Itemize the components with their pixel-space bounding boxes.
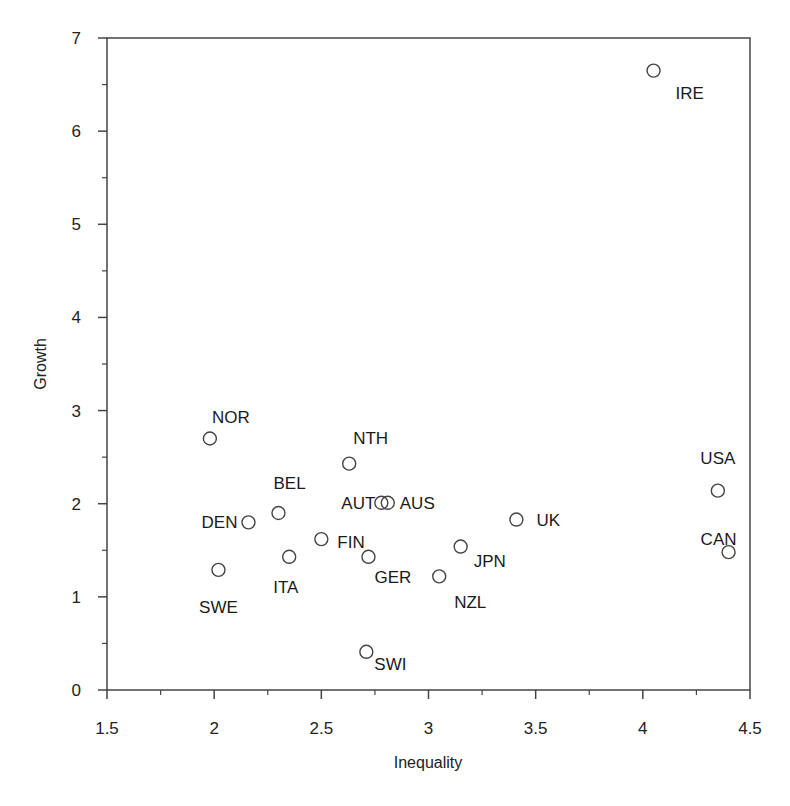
- data-point-usa: USA: [700, 449, 736, 498]
- data-point-nor: NOR: [203, 408, 249, 446]
- circle-marker-icon: [510, 513, 523, 526]
- data-point-nth: NTH: [343, 429, 388, 471]
- data-point-swe: SWE: [199, 563, 238, 617]
- data-point-bel: BEL: [272, 474, 306, 520]
- circle-marker-icon: [212, 563, 225, 576]
- data-points: IRENORNTHUSABELAUTAUSDENUKFINCANJPNITAGE…: [199, 64, 736, 674]
- point-label: ITA: [273, 578, 299, 597]
- y-tick-label: 1: [72, 588, 81, 607]
- data-point-ger: GER: [362, 550, 411, 587]
- x-tick-label: 2.5: [310, 719, 334, 738]
- data-point-ire: IRE: [647, 64, 704, 103]
- data-point-den: DEN: [202, 513, 255, 532]
- point-label: JPN: [474, 552, 506, 571]
- x-tick-label: 4.5: [738, 719, 762, 738]
- y-tick-label: 3: [72, 402, 81, 421]
- y-tick-label: 6: [72, 122, 81, 141]
- x-tick-label: 4: [638, 719, 647, 738]
- x-axis: 1.522.533.544.5: [95, 690, 762, 738]
- point-label: IRE: [676, 84, 704, 103]
- data-point-fin: FIN: [315, 533, 365, 553]
- point-label: CAN: [701, 530, 737, 549]
- circle-marker-icon: [362, 550, 375, 563]
- circle-marker-icon: [711, 484, 724, 497]
- circle-marker-icon: [343, 457, 356, 470]
- plot-frame: [107, 38, 750, 690]
- point-label: NTH: [353, 429, 388, 448]
- scatter-chart: 1.522.533.544.5 01234567 IRENORNTHUSABEL…: [0, 0, 790, 806]
- point-label: UK: [536, 511, 560, 530]
- circle-marker-icon: [360, 645, 373, 658]
- data-point-can: CAN: [701, 530, 737, 559]
- circle-marker-icon: [315, 533, 328, 546]
- data-point-jpn: JPN: [454, 540, 506, 571]
- circle-marker-icon: [203, 432, 216, 445]
- point-label: SWI: [374, 655, 406, 674]
- circle-marker-icon: [647, 64, 660, 77]
- y-axis: 01234567: [72, 29, 107, 700]
- circle-marker-icon: [454, 540, 467, 553]
- circle-marker-icon: [272, 507, 285, 520]
- point-label: DEN: [202, 513, 238, 532]
- y-tick-label: 5: [72, 215, 81, 234]
- y-tick-label: 0: [72, 681, 81, 700]
- x-tick-label: 2: [209, 719, 218, 738]
- data-point-aus: AUS: [381, 494, 434, 513]
- y-axis-title: Growth: [32, 338, 49, 390]
- data-point-ita: ITA: [273, 550, 299, 597]
- y-tick-label: 7: [72, 29, 81, 48]
- point-label: GER: [374, 568, 411, 587]
- x-tick-label: 3: [424, 719, 433, 738]
- circle-marker-icon: [242, 516, 255, 529]
- data-point-nzl: NZL: [433, 570, 487, 613]
- x-tick-label: 1.5: [95, 719, 119, 738]
- circle-marker-icon: [283, 550, 296, 563]
- point-label: AUS: [400, 494, 435, 513]
- x-tick-label: 3.5: [524, 719, 548, 738]
- y-tick-label: 4: [72, 308, 81, 327]
- point-label: USA: [700, 449, 736, 468]
- point-label: FIN: [337, 533, 364, 552]
- data-point-swi: SWI: [360, 645, 407, 674]
- data-point-uk: UK: [510, 511, 561, 530]
- point-label: BEL: [273, 474, 305, 493]
- point-label: NOR: [212, 408, 250, 427]
- point-label: SWE: [199, 598, 238, 617]
- y-tick-label: 2: [72, 495, 81, 514]
- x-axis-title: Inequality: [394, 754, 463, 771]
- point-label: NZL: [454, 593, 486, 612]
- circle-marker-icon: [433, 570, 446, 583]
- point-label: AUT: [341, 494, 375, 513]
